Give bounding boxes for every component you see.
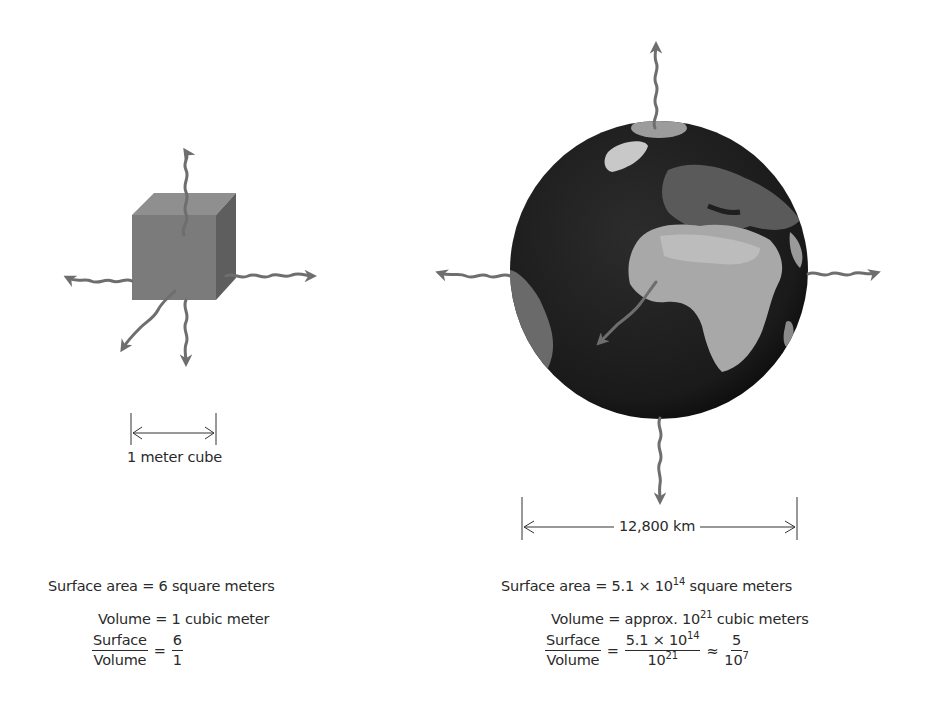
cube-ratio-value-fraction: 6 1 bbox=[172, 632, 183, 669]
earth-ratio-label-fraction: Surface Volume bbox=[545, 632, 601, 669]
cube-arrow-down-icon bbox=[185, 300, 187, 362]
earth-figure bbox=[500, 118, 808, 419]
earth-ratio: Surface Volume = 5.1 × 1014 1021 ≈ 5 107 bbox=[545, 632, 749, 669]
earth-ratio-final-fraction: 5 107 bbox=[724, 632, 748, 669]
cube-surface-area: Surface area = 6 square meters bbox=[48, 578, 275, 594]
cube-volume: Volume = 1 cubic meter bbox=[98, 611, 269, 627]
cube-ratio-label-fraction: Surface Volume bbox=[92, 632, 148, 669]
earth-surface-area: Surface area = 5.1 × 1014 square meters bbox=[501, 578, 792, 594]
earth-dimension-label: 12,800 km bbox=[614, 518, 700, 534]
cube-ratio: Surface Volume = 6 1 bbox=[92, 632, 183, 669]
cube-arrow-right-icon bbox=[226, 274, 312, 277]
earth-arrow-down-icon bbox=[659, 418, 662, 500]
earth-arrow-up-icon bbox=[654, 46, 657, 128]
cube-dimension-line bbox=[131, 413, 216, 445]
earth-arrow-left-icon bbox=[440, 273, 510, 277]
earth-ratio-mid-fraction: 5.1 × 1014 1021 bbox=[625, 632, 701, 669]
cube-arrow-left-icon bbox=[68, 278, 132, 282]
earth-volume: Volume = approx. 1021 cubic meters bbox=[551, 611, 809, 627]
cube-dimension-label: 1 meter cube bbox=[127, 449, 222, 465]
cube-front-face bbox=[132, 215, 216, 300]
earth-arrow-right-icon bbox=[808, 273, 876, 276]
